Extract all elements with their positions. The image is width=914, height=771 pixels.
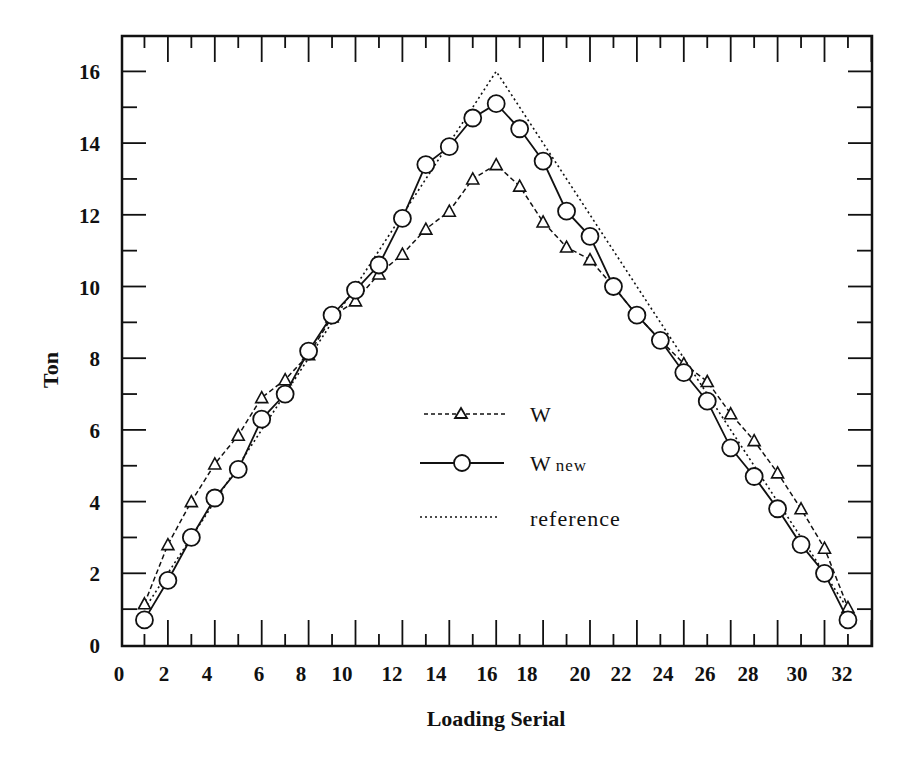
- circle-marker-icon: [370, 256, 387, 273]
- circle-marker-icon: [488, 95, 505, 112]
- series-reference: [144, 71, 848, 609]
- triangle-marker-icon: [185, 496, 197, 507]
- y-tick-label: 2: [90, 562, 101, 586]
- triangle-marker-icon: [537, 216, 549, 227]
- y-axis-title: Ton: [38, 352, 63, 388]
- circle-marker-icon: [511, 120, 528, 137]
- y-tick-label: 10: [79, 276, 100, 300]
- triangle-marker-icon: [467, 173, 479, 184]
- triangle-marker-icon: [162, 539, 174, 550]
- triangle-marker-icon: [138, 598, 150, 609]
- x-tick-label: 18: [517, 662, 538, 686]
- triangle-marker-icon: [443, 205, 455, 216]
- x-tick-label: 24: [653, 662, 675, 686]
- line-chart: 02468101214161820222426283032 0246810121…: [0, 0, 914, 771]
- x-tick-label: 4: [202, 662, 213, 686]
- y-tick-label: 8: [90, 347, 101, 371]
- triangle-marker-icon: [701, 376, 713, 387]
- x-tick-label: 6: [254, 662, 265, 686]
- circle-marker-icon: [793, 536, 810, 553]
- circle-marker-icon: [230, 461, 247, 478]
- circle-marker-icon: [535, 153, 552, 170]
- x-tick-label: 16: [477, 662, 498, 686]
- circle-marker-icon: [347, 282, 364, 299]
- triangle-marker-icon: [584, 254, 596, 265]
- series-line: [144, 71, 848, 609]
- circle-marker-icon: [652, 332, 669, 349]
- triangle-marker-icon: [420, 223, 432, 234]
- circle-marker-icon: [605, 278, 622, 295]
- x-tick-label: 2: [159, 662, 170, 686]
- triangle-marker-icon: [725, 408, 737, 419]
- circle-marker-icon: [300, 343, 317, 360]
- y-tick-label: 16: [79, 60, 100, 84]
- plot-border: [122, 36, 872, 646]
- circle-marker-icon: [816, 565, 833, 582]
- triangle-marker-icon: [514, 180, 526, 191]
- x-tick-label: 14: [426, 662, 448, 686]
- y-axis-ticks: [122, 71, 872, 609]
- circle-marker-icon: [454, 455, 470, 471]
- series-layer: [136, 71, 857, 628]
- circle-marker-icon: [394, 210, 411, 227]
- y-tick-label: 4: [90, 491, 101, 515]
- circle-marker-icon: [464, 110, 481, 127]
- circle-marker-icon: [136, 611, 153, 628]
- x-tick-label: 32: [832, 662, 853, 686]
- circle-marker-icon: [699, 393, 716, 410]
- legend-item-w-new: Wnew: [420, 451, 587, 476]
- triangle-marker-icon: [232, 429, 244, 440]
- x-tick-label: 30: [787, 662, 808, 686]
- x-tick-label: 12: [382, 662, 403, 686]
- circle-marker-icon: [417, 156, 434, 173]
- y-tick-label: 14: [79, 132, 101, 156]
- legend-label-w: W: [530, 402, 552, 427]
- triangle-marker-icon: [795, 503, 807, 514]
- y-tick-label: 6: [90, 419, 101, 443]
- y-tick-label: 12: [79, 204, 100, 228]
- circle-marker-icon: [722, 439, 739, 456]
- x-axis-ticks: [144, 36, 871, 646]
- x-tick-label: 22: [611, 662, 632, 686]
- x-tick-label: 0: [114, 662, 125, 686]
- circle-marker-icon: [183, 529, 200, 546]
- circle-marker-icon: [206, 490, 223, 507]
- legend-label-reference: reference: [530, 506, 621, 531]
- x-tick-label: 26: [695, 662, 716, 686]
- circle-marker-icon: [839, 611, 856, 628]
- series-w-new: [136, 95, 857, 628]
- triangle-marker-icon: [819, 542, 831, 553]
- legend: W Wnew reference: [420, 402, 621, 531]
- triangle-marker-icon: [455, 408, 467, 418]
- x-tick-label: 8: [296, 662, 307, 686]
- circle-marker-icon: [159, 572, 176, 589]
- circle-marker-icon: [675, 364, 692, 381]
- triangle-marker-icon: [490, 159, 502, 170]
- circle-marker-icon: [277, 386, 294, 403]
- circle-marker-icon: [582, 228, 599, 245]
- circle-marker-icon: [628, 307, 645, 324]
- x-tick-label: 20: [570, 662, 591, 686]
- legend-item-w: W: [424, 402, 552, 427]
- circle-marker-icon: [253, 411, 270, 428]
- circle-marker-icon: [324, 307, 341, 324]
- plot-frame: [122, 36, 872, 646]
- legend-item-reference: reference: [420, 506, 621, 531]
- x-axis-title: Loading Serial: [427, 706, 566, 731]
- legend-label-w-new: Wnew: [530, 451, 587, 476]
- y-tick-label: 0: [90, 634, 101, 658]
- x-tick-label: 10: [332, 662, 353, 686]
- series-line: [144, 165, 848, 608]
- circle-marker-icon: [558, 203, 575, 220]
- y-axis-tick-labels: 0246810121416: [79, 60, 101, 658]
- circle-marker-icon: [441, 138, 458, 155]
- series-w: [138, 159, 854, 613]
- triangle-marker-icon: [772, 467, 784, 478]
- circle-marker-icon: [746, 468, 763, 485]
- circle-marker-icon: [769, 500, 786, 517]
- x-tick-label: 28: [738, 662, 759, 686]
- series-line: [144, 104, 848, 620]
- x-axis-tick-labels: 02468101214161820222426283032: [114, 662, 853, 686]
- triangle-marker-icon: [396, 248, 408, 259]
- triangle-marker-icon: [256, 392, 268, 403]
